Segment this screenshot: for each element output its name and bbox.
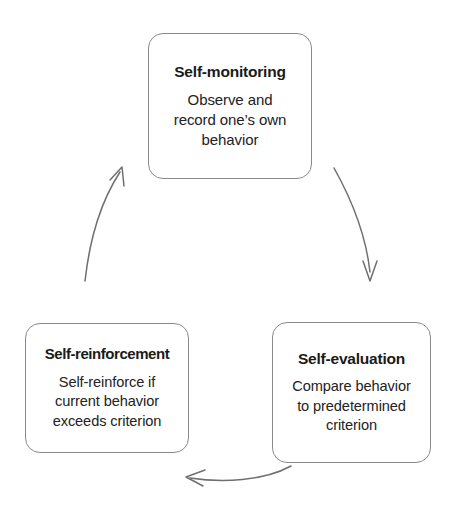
node-self-monitoring: Self-monitoring Observe and record one’s…: [148, 33, 312, 179]
self-regulation-cycle-diagram: Self-monitoring Observe and record one’s…: [0, 0, 463, 507]
node-self-evaluation-title: Self-evaluation: [298, 349, 405, 368]
node-self-evaluation-body: Compare behavior to predetermined criter…: [292, 377, 410, 436]
node-self-monitoring-title: Self-monitoring: [174, 62, 286, 81]
node-self-evaluation: Self-evaluation Compare behavior to pred…: [272, 322, 431, 463]
node-self-reinforcement-body: Self-reinforce if current behavior excee…: [53, 373, 162, 432]
arrow-monitoring-to-evaluation: [334, 168, 377, 281]
node-self-reinforcement-title: Self-reinforcement: [45, 345, 169, 364]
arrow-evaluation-to-reinforcement: [186, 466, 291, 486]
arrow-reinforcement-to-monitoring: [85, 167, 124, 281]
node-self-reinforcement: Self-reinforcement Self-reinforce if cur…: [25, 323, 189, 453]
node-self-monitoring-body: Observe and record one’s own behavior: [174, 90, 286, 150]
